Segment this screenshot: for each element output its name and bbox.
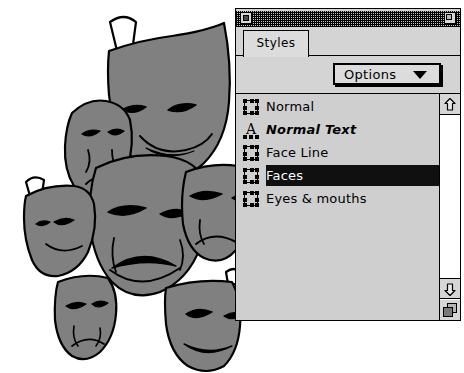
close-box-icon[interactable] [240, 12, 252, 24]
list-item-selected[interactable]: Faces [236, 164, 439, 187]
arrow-down-icon [444, 283, 456, 296]
chevron-down-icon [413, 71, 427, 79]
window-title-bar[interactable] [236, 9, 460, 27]
mask-tragedy-bottom-left [55, 276, 117, 359]
zoom-box-icon[interactable] [444, 12, 456, 24]
list-item[interactable]: Face Line [236, 141, 439, 164]
list-item-label: Normal [266, 99, 314, 114]
object-handles-icon [241, 167, 261, 185]
styles-palette-window: Styles Options Normal A [235, 8, 461, 321]
list-item-label: Eyes & mouths [266, 191, 367, 206]
arrow-up-icon [444, 98, 456, 111]
list-item-label: Normal Text [266, 122, 356, 137]
masks-artwork [0, 0, 248, 373]
styles-list-area: Normal A Normal Text Face Line [236, 94, 460, 320]
styles-list[interactable]: Normal A Normal Text Face Line [236, 94, 440, 320]
options-label: Options [344, 67, 396, 82]
tab-styles[interactable]: Styles [243, 30, 309, 57]
list-item[interactable]: Normal [236, 95, 439, 118]
list-item-label: Faces [266, 168, 303, 183]
options-popup-button[interactable]: Options [333, 63, 441, 85]
options-row: Options [236, 56, 460, 94]
masks-illustration [0, 0, 248, 373]
list-item-label: Face Line [266, 145, 328, 160]
scroll-down-button[interactable] [440, 278, 460, 299]
tab-styles-label: Styles [257, 36, 296, 50]
object-handles-icon [241, 98, 261, 116]
scroll-up-button[interactable] [440, 94, 460, 115]
list-item[interactable]: Eyes & mouths [236, 187, 439, 210]
object-handles-icon [241, 144, 261, 162]
list-item[interactable]: A Normal Text [236, 118, 439, 141]
scroll-track[interactable] [440, 115, 460, 278]
tab-strip: Styles [236, 27, 460, 56]
mask-comedy-left [24, 177, 95, 276]
text-style-a-icon: A [241, 121, 261, 139]
resize-grow-icon[interactable] [440, 300, 460, 320]
mask-comedy-bottom-right [165, 269, 244, 371]
vertical-scrollbar[interactable] [440, 94, 460, 320]
object-handles-icon [241, 190, 261, 208]
